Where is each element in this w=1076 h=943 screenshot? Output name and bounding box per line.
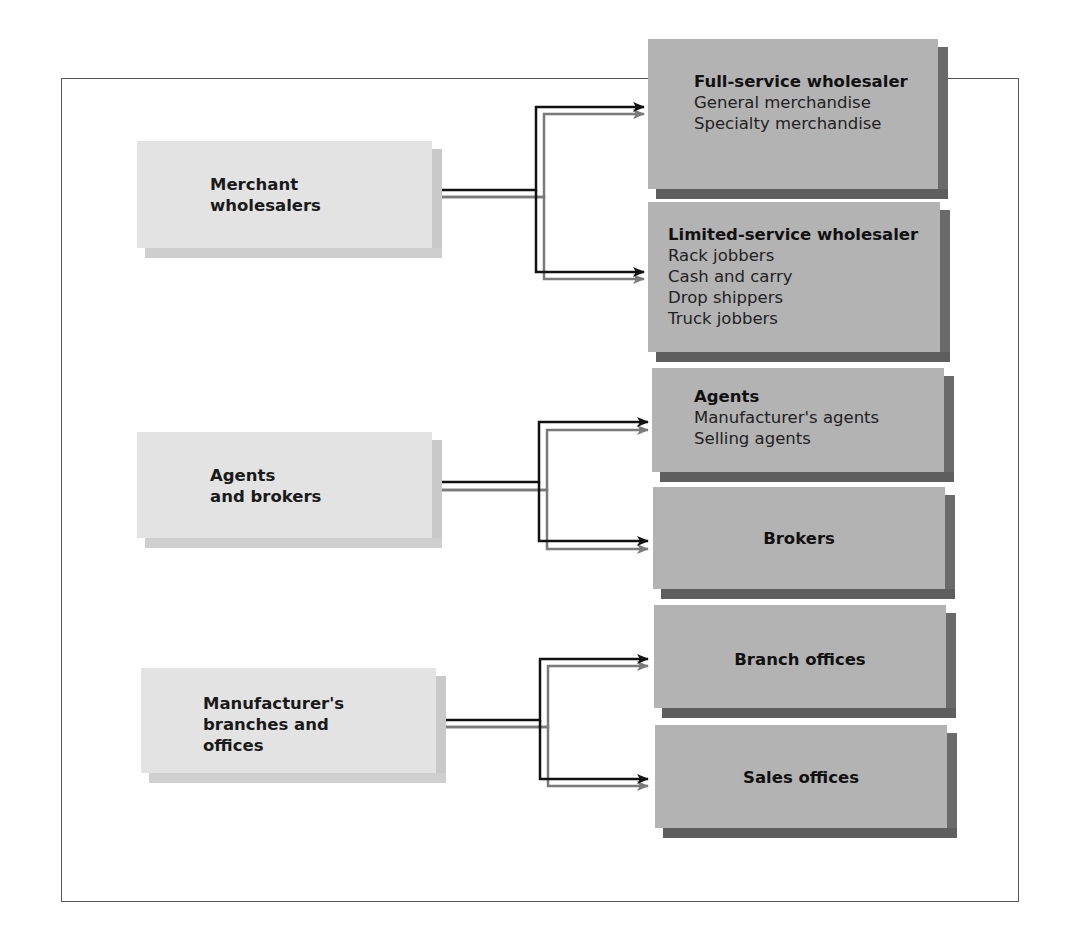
type-item: Drop shippers — [668, 287, 918, 308]
type-title: Agents — [694, 386, 879, 407]
type-item: Specialty merchandise — [694, 113, 908, 134]
type-title: Full-service wholesaler — [694, 71, 908, 92]
type-item: General merchandise — [694, 92, 908, 113]
category-label-line: Agents — [210, 465, 321, 486]
type-item: Manufacturer's agents — [694, 407, 879, 428]
type-item: Selling agents — [694, 428, 879, 449]
category-merchant-wholesalers: Merchant wholesalers — [137, 141, 442, 258]
type-sales-offices: Sales offices — [655, 725, 957, 838]
type-brokers: Brokers — [653, 487, 955, 599]
connector-manufacturers — [431, 659, 648, 786]
category-label-line: offices — [203, 735, 344, 756]
type-item: Cash and carry — [668, 266, 918, 287]
category-label-line: and brokers — [210, 486, 321, 507]
type-title: Branch offices — [734, 650, 865, 669]
category-label-line: Manufacturer's — [203, 693, 344, 714]
type-item: Rack jobbers — [668, 245, 918, 266]
category-label-line: Merchant — [210, 174, 321, 195]
type-limited-service-wholesaler: Limited-service wholesaler Rack jobbers … — [648, 202, 950, 362]
type-title: Brokers — [763, 529, 835, 548]
type-item: Truck jobbers — [668, 308, 918, 329]
connector-merchant — [428, 107, 644, 279]
category-manufacturers-branches: Manufacturer's branches and offices — [141, 668, 446, 783]
type-branch-offices: Branch offices — [654, 605, 956, 718]
connector-agents-brokers — [429, 422, 648, 549]
category-label-line: branches and — [203, 714, 344, 735]
type-agents: Agents Manufacturer's agents Selling age… — [652, 368, 954, 482]
type-full-service-wholesaler: Full-service wholesaler General merchand… — [648, 39, 948, 199]
type-title: Sales offices — [743, 768, 859, 787]
type-title: Limited-service wholesaler — [668, 224, 918, 245]
category-label-line: wholesalers — [210, 195, 321, 216]
category-agents-and-brokers: Agents and brokers — [137, 432, 442, 548]
